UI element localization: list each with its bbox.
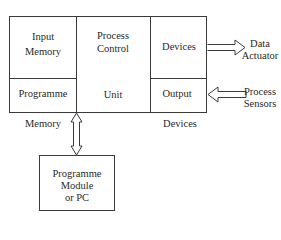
cell-output: Output (153, 88, 201, 100)
bidirectional-arrow-icon (71, 113, 82, 155)
cell-devices-top: Devices (155, 41, 203, 53)
sensors-label: Sensors (240, 98, 280, 110)
devices-below-label: Devices (156, 118, 204, 130)
data-actuator-label: Data Actuator (240, 38, 280, 62)
process-sensors-label: Process Sensors (240, 86, 280, 110)
cell-programme: Programme (11, 88, 75, 100)
process-label: Process (86, 30, 140, 42)
programme-module-label: Programme Module or PC (40, 168, 114, 204)
memory-label: Memory (20, 46, 66, 58)
cell-unit: Unit (90, 89, 136, 101)
cell-input-memory: Input Memory (20, 31, 66, 58)
process-label: Process (240, 86, 280, 98)
control-label: Control (86, 43, 140, 55)
programme-text: Programme (40, 168, 114, 180)
cell-process-control: Process Control (86, 30, 140, 55)
or-pc-text: or PC (40, 192, 114, 204)
actuator-label: Actuator (240, 50, 280, 62)
module-text: Module (40, 180, 114, 192)
input-label: Input (20, 31, 66, 43)
memory-below-label: Memory (20, 118, 66, 130)
data-label: Data (240, 38, 280, 50)
